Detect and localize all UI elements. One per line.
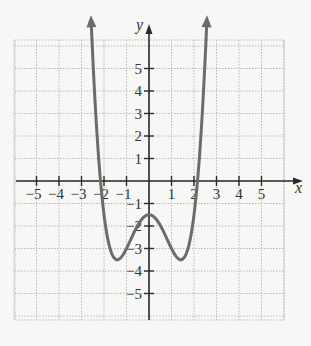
svg-text:−4: −4 <box>126 263 142 279</box>
function-graph: −5−4−3−2−11234554321−1−2−3−4−5 x y <box>0 0 311 346</box>
svg-text:−4: −4 <box>48 186 64 202</box>
svg-text:−1: −1 <box>126 196 142 212</box>
svg-text:2: 2 <box>135 128 143 144</box>
svg-text:−5: −5 <box>126 286 142 302</box>
svg-text:−5: −5 <box>26 186 42 202</box>
svg-text:5: 5 <box>258 186 266 202</box>
svg-text:3: 3 <box>213 186 221 202</box>
svg-text:1: 1 <box>135 151 143 167</box>
y-axis-label: y <box>134 16 144 34</box>
svg-text:3: 3 <box>135 106 143 122</box>
svg-text:4: 4 <box>135 83 143 99</box>
svg-text:1: 1 <box>168 186 176 202</box>
svg-text:4: 4 <box>235 186 243 202</box>
svg-text:5: 5 <box>135 61 143 77</box>
x-axis-label: x <box>294 179 302 196</box>
svg-text:−3: −3 <box>71 186 87 202</box>
